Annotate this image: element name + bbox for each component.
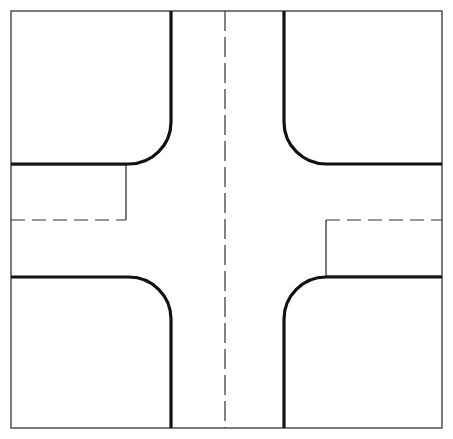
- diagram-background: [0, 0, 453, 439]
- diagram-root: [0, 0, 453, 439]
- intersection-diagram: [0, 0, 453, 439]
